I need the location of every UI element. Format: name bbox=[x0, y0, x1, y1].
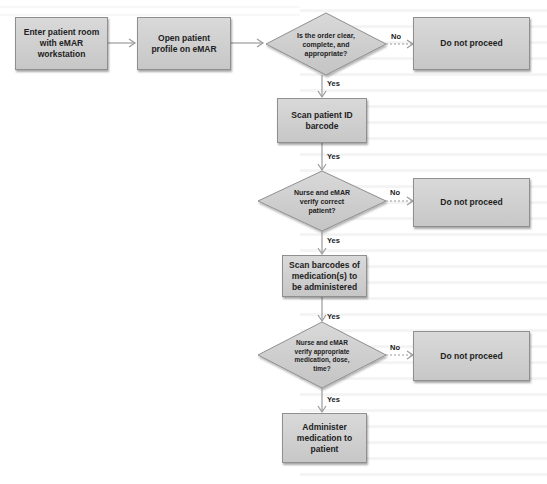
edge-label-yes-5: Yes bbox=[327, 395, 340, 404]
step-open-profile: Open patient profile on eMAR bbox=[137, 17, 231, 70]
step-scan-medications-label: Scan barcodes of medication(s) to be adm… bbox=[289, 260, 360, 293]
decision-patient-text: Nurse and eMAR verify correct patient? bbox=[288, 180, 356, 222]
edge-label-no-2: No bbox=[390, 188, 400, 197]
step-enter-room-label: Enter patient room with eMAR workstation bbox=[22, 27, 101, 60]
step-administer-medication-label: Administer medication to patient bbox=[289, 422, 360, 455]
edge-label-yes-4: Yes bbox=[327, 312, 340, 321]
edge-label-yes-3: Yes bbox=[327, 236, 340, 245]
step-open-profile-label: Open patient profile on eMAR bbox=[144, 33, 224, 55]
terminal-do-not-proceed-3-label: Do not proceed bbox=[440, 351, 502, 362]
step-administer-medication: Administer medication to patient bbox=[282, 413, 367, 463]
decision-meds-text: Nurse and eMAR verify appropriate medica… bbox=[290, 330, 354, 382]
edge-label-yes-1: Yes bbox=[327, 79, 340, 88]
edge-label-no-1: No bbox=[391, 32, 401, 41]
edge-label-yes-2: Yes bbox=[327, 152, 340, 161]
terminal-do-not-proceed-3: Do not proceed bbox=[413, 331, 530, 381]
terminal-do-not-proceed-1-label: Do not proceed bbox=[440, 38, 502, 49]
terminal-do-not-proceed-2: Do not proceed bbox=[413, 178, 530, 227]
step-enter-room: Enter patient room with eMAR workstation bbox=[15, 17, 108, 70]
connectors-layer bbox=[0, 0, 547, 484]
edge-label-no-3: No bbox=[390, 343, 400, 352]
step-scan-patient-id-label: Scan patient ID barcode bbox=[284, 110, 360, 132]
terminal-do-not-proceed-1: Do not proceed bbox=[413, 17, 530, 70]
step-scan-patient-id: Scan patient ID barcode bbox=[277, 98, 367, 143]
decision-order-text: Is the order clear, complete, and approp… bbox=[290, 22, 362, 66]
terminal-do-not-proceed-2-label: Do not proceed bbox=[440, 197, 502, 208]
step-scan-medications: Scan barcodes of medication(s) to be adm… bbox=[282, 255, 367, 297]
